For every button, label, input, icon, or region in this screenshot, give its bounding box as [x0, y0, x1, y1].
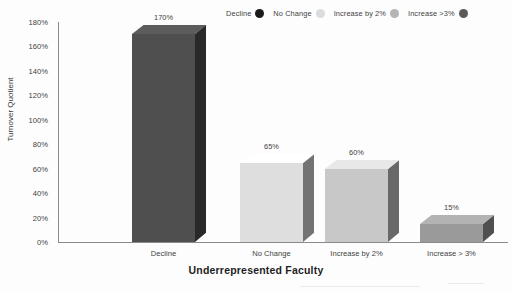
legend-item-no-change: No Change	[273, 9, 324, 18]
x-tick-label: No Change	[227, 249, 317, 258]
legend-item-decline: Decline	[226, 9, 264, 18]
bar-side-face	[388, 159, 399, 242]
bar-value-label: 15%	[420, 203, 483, 212]
bar-top-face	[132, 25, 207, 34]
legend-label-decline: Decline	[226, 9, 251, 18]
y-tick-label: 160%	[2, 42, 48, 51]
x-tick-label: Increase by 2%	[312, 249, 402, 258]
x-tick-label: Decline	[119, 249, 209, 258]
legend-swatch-increase-over-3-icon	[459, 9, 468, 18]
bar-column: 15%	[420, 224, 483, 242]
legend-label-increase-over-3: Increase >3%	[408, 9, 455, 18]
legend-swatch-no-change-icon	[316, 9, 325, 18]
bar-value-label: 170%	[132, 13, 195, 22]
bar-value-label: 65%	[240, 142, 303, 151]
bar-side-face	[303, 153, 314, 242]
bar-top-face	[420, 215, 495, 224]
legend-swatch-increase-by-2-icon	[390, 9, 399, 18]
bar-front-face	[420, 224, 483, 242]
bar-front-face	[325, 169, 388, 242]
y-tick-label: 0%	[2, 238, 48, 247]
x-axis-line	[58, 242, 508, 243]
y-tick-label: 80%	[2, 140, 48, 149]
bar-value-label: 60%	[325, 148, 388, 157]
plot-area: 170%65%60%15%	[58, 22, 508, 242]
y-tick-label: 140%	[2, 66, 48, 75]
bar-column: 65%	[240, 163, 303, 242]
legend-label-increase-by-2: Increase by 2%	[334, 9, 386, 18]
bar-front-face	[240, 163, 303, 242]
y-tick-label: 60%	[2, 164, 48, 173]
legend-label-no-change: No Change	[273, 9, 311, 18]
bar-front-face	[132, 34, 195, 242]
legend-swatch-decline-icon	[255, 9, 264, 18]
scan-artifact	[300, 286, 420, 287]
bar-side-face	[195, 25, 206, 242]
chart-screenshot: Decline No Change Increase by 2% Increas…	[0, 0, 512, 292]
bar-top-face	[240, 154, 315, 163]
legend-item-increase-over-3: Increase >3%	[408, 9, 468, 18]
y-tick-label: 100%	[2, 115, 48, 124]
y-tick-label: 40%	[2, 189, 48, 198]
y-tick-label: 20%	[2, 213, 48, 222]
x-axis-title: Underrepresented Faculty	[0, 264, 512, 276]
bar-top-face	[325, 160, 400, 169]
bar-column: 60%	[325, 169, 388, 242]
y-tick-label: 120%	[2, 91, 48, 100]
x-tick-label: Increase > 3%	[407, 249, 497, 258]
chart-legend: Decline No Change Increase by 2% Increas…	[226, 9, 468, 18]
bar-column: 170%	[132, 34, 195, 242]
y-tick-label: 180%	[2, 18, 48, 27]
legend-item-increase-by-2: Increase by 2%	[334, 9, 399, 18]
scan-artifact	[448, 283, 484, 284]
